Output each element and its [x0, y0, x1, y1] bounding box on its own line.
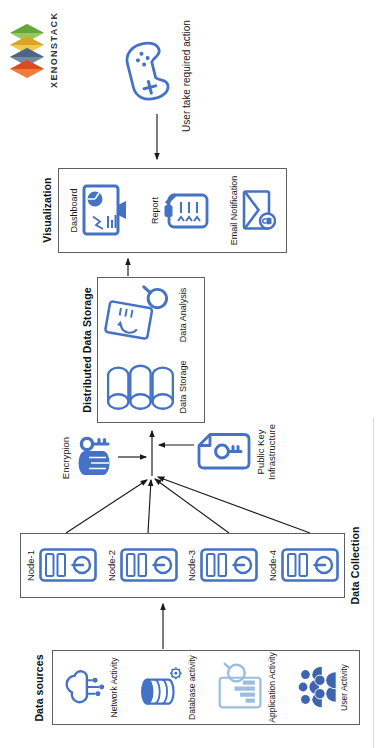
app-chart-magnifier-icon	[216, 663, 266, 713]
source-label: Application Activity	[268, 652, 278, 722]
storage-item-label: Data Storage	[178, 360, 188, 413]
source-label: Network Activity	[110, 658, 120, 718]
encryption-barrel-key-icon	[75, 435, 117, 477]
source-application-activity: Application Activity	[216, 652, 278, 722]
data-sources-box: Network Activity Database activity	[52, 650, 360, 725]
storage-item-label: Data Analysis	[178, 288, 188, 343]
rotated-diagram-stage: Data sources Network Activity	[0, 0, 377, 748]
people-group-icon	[296, 664, 338, 712]
viz-item-label: Email Notification	[229, 176, 239, 246]
source-network-activity: Network Activity	[62, 658, 120, 718]
cloud-network-icon	[62, 665, 108, 711]
server-node-icon	[200, 549, 258, 583]
gamepad-icon	[114, 40, 176, 104]
dashboard-item: Dashboard	[69, 185, 129, 237]
storage-title: Distributed Data Storage	[81, 273, 93, 427]
data-sources-title: Data sources	[33, 648, 45, 728]
dashboard-monitor-icon	[82, 185, 130, 237]
data-collection-box: Node-1 Node-2 Node-3 Node-4	[20, 533, 345, 598]
pki-label: Public Key Infrastructure	[256, 409, 278, 495]
data-storage-item: Data Storage	[104, 356, 188, 418]
database-gear-icon	[138, 665, 186, 711]
visualization-title: Visualization	[41, 165, 53, 255]
server-node-icon	[120, 549, 178, 583]
encryption-label: Encrypion	[61, 423, 72, 493]
xenonstack-diamonds-icon	[8, 23, 46, 79]
xenonstack-logo: XENONSTACK	[8, 14, 59, 88]
source-user-activity: User Activity	[296, 664, 350, 712]
node-label: Node-1	[26, 550, 37, 581]
visualization-box: Dashboard Report	[58, 168, 287, 253]
report-item: Report	[150, 190, 208, 232]
node-cell: Node-1	[26, 549, 97, 583]
pki-key-document-icon	[197, 432, 251, 472]
storage-box: Data Storage Data Analysis	[97, 277, 205, 423]
analysis-magnifier-icon	[100, 284, 176, 346]
data-analysis-item: Data Analysis	[100, 282, 188, 348]
data-collection-title: Data Collection	[349, 519, 361, 612]
report-clipboard-icon	[163, 190, 209, 232]
server-node-icon	[281, 549, 339, 583]
stacked-cylinders-icon	[104, 358, 176, 416]
node-cell: Node-4	[268, 549, 339, 583]
source-label: Database activity	[188, 655, 198, 720]
node-label: Node-2	[107, 550, 118, 581]
pki-label-line2: Infrastructure	[267, 409, 278, 495]
node-cell: Node-2	[107, 549, 178, 583]
viz-item-label: Dashboard	[69, 188, 79, 232]
node-cell: Node-3	[187, 549, 258, 583]
email-notification-item: Email Notification	[229, 176, 275, 246]
user-action-label: User take required action	[181, 12, 193, 140]
source-label: User Activity	[340, 664, 350, 711]
server-node-icon	[39, 549, 97, 583]
email-lock-icon	[242, 190, 276, 232]
viz-item-label: Report	[150, 197, 160, 224]
logo-wordmark: XENONSTACK	[49, 14, 59, 88]
source-database-activity: Database activity	[138, 655, 198, 720]
node-label: Node-3	[187, 550, 198, 581]
node-label: Node-4	[268, 550, 279, 581]
